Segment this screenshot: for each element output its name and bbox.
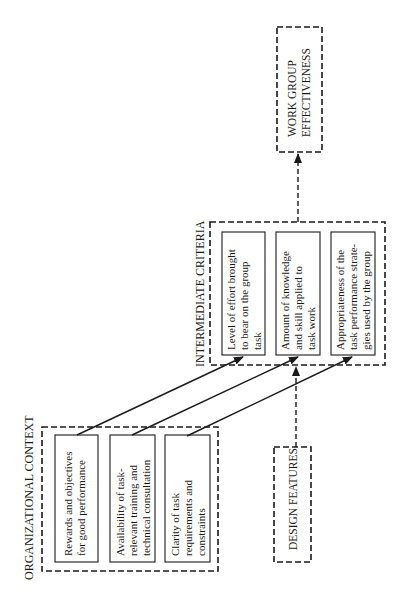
arrow-rewards-to-effort: [77, 357, 243, 435]
svg-text:Rewards and objectives: Rewards and objectives for good performa…: [62, 449, 87, 556]
svg-text:Amount of knowledge an: Amount of knowledge and skill applied to…: [279, 248, 317, 350]
criteria-item-effort: Level of effort brought to bear on the g…: [222, 232, 265, 355]
design-features-group: DESIGN FEATURES: [274, 447, 311, 562]
diagram-canvas: ORGANIZATIONAL CONTEXT Rewards and objec…: [0, 0, 403, 602]
work-group-effectiveness-group: WORK GROUP EFFECTIVENESS: [277, 27, 322, 152]
svg-text:Appropriateness of the: Appropriateness of the task performance …: [334, 241, 372, 350]
org-item-rewards: Rewards and objectives for good performa…: [55, 435, 98, 562]
svg-text:Clarity of task requir: Clarity of task requirements and constra…: [169, 477, 207, 556]
org-item-clarity: Clarity of task requirements and constra…: [165, 435, 210, 562]
org-item-availability: Availability of task- relevant training …: [110, 435, 155, 562]
arrow-clarity-to-strategies: [187, 357, 352, 436]
criteria-item-knowledge: Amount of knowledge and skill applied to…: [276, 232, 320, 355]
organizational-context-group: ORGANIZATIONAL CONTEXT Rewards and objec…: [22, 415, 218, 580]
svg-text:Level of effort brought: Level of effort brought to bear on the g…: [225, 246, 263, 350]
criteria-item-strategies: Appropriateness of the task performance …: [331, 232, 375, 355]
work-group-effectiveness-label: WORK GROUP EFFECTIVENESS: [286, 48, 312, 137]
intermediate-criteria-title: INTERMEDIATE CRITERIA: [193, 220, 207, 367]
connectors: [77, 154, 352, 447]
svg-text:Availability of task-: Availability of task- relevant training …: [114, 459, 152, 556]
organizational-context-title: ORGANIZATIONAL CONTEXT: [22, 415, 36, 580]
intermediate-criteria-group: INTERMEDIATE CRITERIA Level of effort br…: [193, 220, 385, 367]
design-features-label: DESIGN FEATURES: [287, 448, 299, 550]
